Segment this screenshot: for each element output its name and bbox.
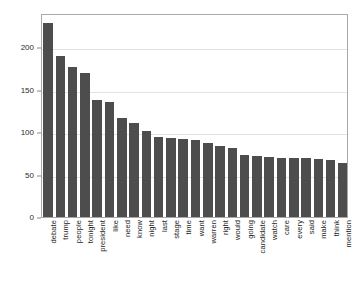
bar — [178, 139, 188, 217]
bar — [252, 156, 262, 217]
bar — [68, 67, 78, 217]
bar — [92, 100, 102, 217]
bar — [105, 102, 115, 217]
x-tick-label: time — [185, 220, 193, 235]
y-tick-label: 0 — [30, 214, 34, 222]
x-tick-label: people — [75, 220, 83, 243]
bar — [338, 163, 348, 217]
x-tick-label: want — [198, 220, 206, 236]
x-tick-label: care — [283, 220, 291, 235]
bar — [166, 138, 176, 217]
bar — [264, 157, 274, 217]
bar — [314, 159, 324, 217]
x-tick-label: mention — [345, 220, 353, 247]
x-tick-label: every — [296, 220, 304, 239]
x-tick-label: make — [320, 220, 328, 239]
x-tick-label: president — [99, 220, 107, 252]
x-tick-label: watch — [271, 220, 279, 240]
x-tick-label: know — [136, 220, 144, 238]
bar — [142, 131, 152, 217]
x-tick-label: think — [333, 220, 341, 236]
x-tick-label: said — [308, 220, 316, 234]
x-tick-label: going — [247, 220, 255, 239]
x-tick-label: last — [161, 220, 169, 232]
bar — [56, 56, 66, 218]
bar-chart-figure: 050100150200 debatetrumppeopletonightpre… — [0, 0, 363, 282]
y-axis: 050100150200 — [0, 0, 41, 218]
bar — [215, 146, 225, 217]
x-tick-label: right — [222, 220, 230, 235]
bar — [203, 143, 213, 217]
bar — [228, 148, 238, 217]
x-tick-label: tonight — [87, 220, 95, 243]
x-tick-label: candidate — [259, 220, 267, 253]
y-tick-label: 150 — [21, 87, 34, 95]
bar — [289, 158, 299, 218]
x-axis: debatetrumppeopletonightpresidentlikenee… — [41, 220, 348, 282]
x-tick-label: would — [234, 220, 242, 240]
bar — [80, 73, 90, 218]
y-tick-label: 100 — [21, 129, 34, 137]
plot-area — [41, 14, 348, 218]
x-tick-label: night — [148, 220, 156, 237]
bar — [240, 155, 250, 217]
bar — [117, 118, 127, 217]
y-tick-label: 50 — [25, 172, 34, 180]
x-tick-label: trump — [62, 220, 70, 240]
x-tick-label: warren — [210, 220, 218, 244]
bar — [326, 160, 336, 217]
x-tick-label: stage — [173, 220, 181, 239]
bars-series — [42, 15, 347, 217]
bar — [154, 137, 164, 217]
bar — [43, 23, 53, 217]
x-tick-label: like — [112, 220, 120, 232]
bar — [129, 123, 139, 217]
bar — [301, 158, 311, 218]
bar — [277, 158, 287, 218]
x-tick-label: need — [124, 220, 132, 237]
bar — [191, 140, 201, 217]
x-tick-label: debate — [50, 220, 58, 244]
y-tick-label: 200 — [21, 44, 34, 52]
